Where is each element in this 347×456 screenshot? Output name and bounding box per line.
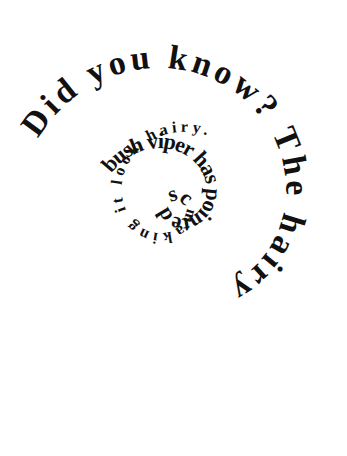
spiral-text-graphic: Did you know? The hairy bush viper has p… xyxy=(0,0,347,456)
spiral-turn-outer-label: Did you know? The hairy xyxy=(13,38,316,312)
spiral-text-canvas: Did you know? The hairy bush viper has p… xyxy=(0,0,347,456)
spiral-turn-outer: Did you know? The hairy xyxy=(13,38,316,312)
